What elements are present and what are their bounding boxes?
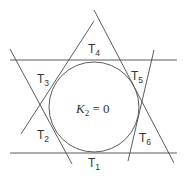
svg-text:T1: T1 xyxy=(88,156,100,172)
region-label-t4: T4 xyxy=(88,42,100,58)
svg-text:K2 = 0: K2 = 0 xyxy=(75,101,110,118)
region-label-t3: T3 xyxy=(37,72,49,88)
right-descending-line xyxy=(94,10,174,163)
left-descending-line xyxy=(10,49,72,164)
left-ascending-line xyxy=(21,21,94,134)
region-label-t5: T5 xyxy=(131,69,143,85)
svg-text:T3: T3 xyxy=(37,72,49,88)
tangent-lines-diagram: K2 = 0 T1 T2 T3 T4 T5 T6 xyxy=(0,0,185,180)
svg-text:T4: T4 xyxy=(88,42,100,58)
center-label: K2 = 0 xyxy=(75,101,110,118)
svg-text:T2: T2 xyxy=(37,128,49,144)
region-label-t2: T2 xyxy=(37,128,49,144)
region-label-t6: T6 xyxy=(139,131,151,147)
svg-text:T5: T5 xyxy=(131,69,143,85)
svg-text:T6: T6 xyxy=(139,131,151,147)
region-label-t1: T1 xyxy=(88,156,100,172)
